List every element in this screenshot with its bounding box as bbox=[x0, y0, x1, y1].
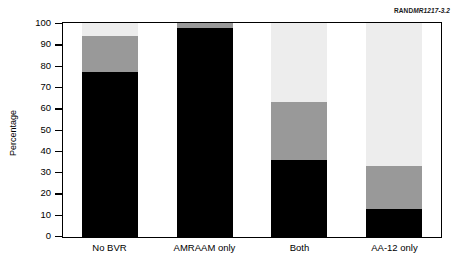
y-axis-tick-mark bbox=[55, 151, 62, 152]
y-axis-title: Percentage bbox=[8, 88, 18, 178]
y-axis-tick-label: 90 bbox=[40, 38, 51, 50]
y-axis-tick-label: 30 bbox=[40, 166, 51, 178]
x-axis-label: AA-12 only bbox=[350, 242, 440, 253]
figure-source-id: RANDMR1217-3.2 bbox=[394, 7, 450, 14]
plot-area bbox=[63, 23, 441, 237]
figure-source-id-suffix: MR1217-3.2 bbox=[413, 7, 450, 14]
bar-segment-light bbox=[271, 23, 327, 102]
bar-segment-light bbox=[366, 23, 422, 166]
y-axis-tick-mark bbox=[55, 193, 62, 194]
y-axis-tick-mark bbox=[55, 23, 62, 24]
bar-slot bbox=[366, 23, 422, 237]
y-axis-tick-label: 40 bbox=[40, 145, 51, 157]
x-axis-label: Both bbox=[255, 242, 345, 253]
y-axis-tick-mark bbox=[55, 87, 62, 88]
bar-segment-black bbox=[271, 160, 327, 237]
bar-segment-gray bbox=[366, 166, 422, 209]
bar-segment-gray bbox=[271, 102, 327, 160]
bar-slot bbox=[271, 23, 327, 237]
y-axis-tick-mark bbox=[55, 66, 62, 67]
x-axis-label: No BVR bbox=[65, 242, 155, 253]
stacked-bar[interactable] bbox=[82, 23, 138, 237]
stacked-bar[interactable] bbox=[271, 23, 327, 237]
y-axis-tick-label: 100 bbox=[35, 17, 51, 29]
stacked-bar[interactable] bbox=[366, 23, 422, 237]
y-axis-tick-mark bbox=[55, 130, 62, 131]
bar-segment-black bbox=[366, 209, 422, 237]
y-axis-tick-label: 80 bbox=[40, 60, 51, 72]
bar-segment-black bbox=[82, 72, 138, 237]
y-axis-tick-mark bbox=[55, 172, 62, 173]
y-axis-tick-mark bbox=[55, 236, 62, 237]
y-axis-tick-label: 60 bbox=[40, 102, 51, 114]
bar-slot bbox=[177, 23, 233, 237]
stacked-bar[interactable] bbox=[177, 23, 233, 237]
bar-segment-gray bbox=[82, 36, 138, 72]
bar-slot bbox=[82, 23, 138, 237]
x-axis-labels: No BVRAMRAAM onlyBothAA-12 only bbox=[62, 242, 442, 262]
y-axis-tick-label: 50 bbox=[40, 124, 51, 136]
y-axis-tick-mark bbox=[55, 215, 62, 216]
bar-segment-light bbox=[82, 23, 138, 36]
y-axis-tick-label: 0 bbox=[46, 230, 51, 242]
y-axis-tick-label: 10 bbox=[40, 209, 51, 221]
bar-segment-black bbox=[177, 28, 233, 237]
y-axis-tick-label: 20 bbox=[40, 187, 51, 199]
plot-frame bbox=[62, 22, 442, 238]
y-axis-tick-mark bbox=[55, 108, 62, 109]
figure-root: RANDMR1217-3.2 Percentage 10090807060504… bbox=[0, 0, 458, 271]
y-axis-tick-label: 70 bbox=[40, 81, 51, 93]
figure-source-id-prefix: RAND bbox=[394, 7, 413, 14]
x-axis-label: AMRAAM only bbox=[160, 242, 250, 253]
y-axis-tick-mark bbox=[55, 44, 62, 45]
